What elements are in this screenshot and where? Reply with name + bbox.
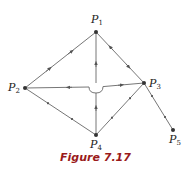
edge-p2-p3-left <box>25 87 89 88</box>
node-p2 <box>23 86 27 90</box>
label-p1: P1 <box>91 14 103 27</box>
network-diagram: P1 P2 P3 P4 P5 Figure 7.17 <box>0 0 191 171</box>
edge-p4-p3 <box>96 83 144 135</box>
arrow-p2-p1-a <box>46 68 50 71</box>
crossing-hop <box>89 87 103 93</box>
arrow-p1-p3-b <box>126 64 129 67</box>
node-p5 <box>171 128 175 132</box>
edge-p2-p3-right <box>103 83 144 87</box>
label-p5: P5 <box>169 134 181 147</box>
edge-p2-p1 <box>25 32 96 88</box>
edge-p1-p3 <box>96 32 144 83</box>
edge-p2-p4 <box>25 88 96 135</box>
label-p3: P3 <box>149 78 161 91</box>
label-p2: P2 <box>8 82 20 95</box>
node-p1 <box>94 30 98 34</box>
figure-caption: Figure 7.17 <box>0 151 191 164</box>
arrow-p2-p1-b <box>68 51 72 54</box>
node-p3 <box>142 81 146 85</box>
node-p4 <box>94 133 98 137</box>
arrow-p1-p3-a <box>110 47 113 50</box>
